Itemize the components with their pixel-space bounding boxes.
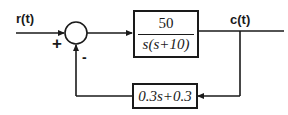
forward-numerator: 50 (157, 15, 176, 32)
summing-junction-circle (65, 22, 87, 44)
feedback-transfer-function: 0.3s+0.3 (138, 88, 191, 105)
block-diagram: r(t) + - c(t) 50 s(s+10) 0.3s+0.3 (0, 0, 288, 115)
minus-sign: - (82, 49, 87, 65)
output-signal-label: c(t) (230, 12, 250, 27)
forward-denominator: s(s+10) (143, 36, 190, 53)
feedback-transfer-block: 0.3s+0.3 (132, 83, 198, 109)
plus-sign: + (52, 34, 62, 54)
forward-transfer-block: 50 s(s+10) (133, 10, 199, 58)
fraction-bar (138, 34, 194, 35)
input-signal-label: r(t) (16, 11, 34, 26)
